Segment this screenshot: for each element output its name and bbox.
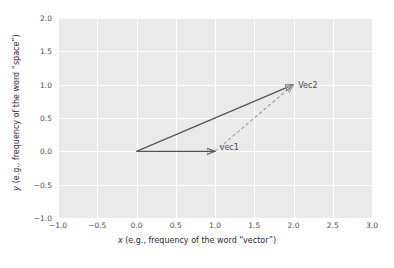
- plot-area: vec1Vec2: [58, 18, 372, 218]
- x-tick-label-1: −0.5: [88, 221, 106, 230]
- x-tick-label-7: 2.5: [327, 221, 339, 230]
- y-tick-label-3: 0.5: [40, 114, 52, 123]
- x-tick-label-3: 0.5: [170, 221, 182, 230]
- vector-label-vec2: Vec2: [298, 81, 317, 90]
- y-tick-label-2: 0.0: [40, 147, 52, 156]
- y-tick-label-0: −1.0: [34, 214, 52, 223]
- x-tick-label-5: 1.5: [248, 221, 260, 230]
- y-tick-label-6: 2.0: [40, 14, 52, 23]
- vector-layer: [58, 18, 372, 218]
- x-tick-label-2: 0.0: [131, 221, 143, 230]
- x-tick-label-8: 3.0: [366, 221, 378, 230]
- vector-plot-figure: vec1Vec2 −1.0−0.50.00.51.01.52.02.53.0 −…: [0, 0, 394, 268]
- x-tick-label-4: 1.0: [209, 221, 221, 230]
- vector-arrow-vec2: [137, 85, 294, 152]
- vector-label-vec1: vec1: [220, 143, 239, 152]
- y-tick-label-1: −0.5: [34, 180, 52, 189]
- x-axis-title: x (e.g., frequency of the word “vector”): [0, 236, 394, 245]
- y-tick-label-4: 1.0: [40, 80, 52, 89]
- y-axis-title-text: (e.g., frequency of the word “space”): [12, 34, 21, 186]
- y-tick-label-5: 1.5: [40, 47, 52, 56]
- x-tick-label-6: 2.0: [288, 221, 300, 230]
- y-axis-title-symbol: y: [12, 186, 21, 191]
- x-axis-title-text: (e.g., frequency of the word “vector”): [123, 236, 276, 245]
- vector-arrow-vec2-translated: [215, 85, 294, 152]
- y-axis-title: y (e.g., frequency of the word “space”): [12, 18, 21, 208]
